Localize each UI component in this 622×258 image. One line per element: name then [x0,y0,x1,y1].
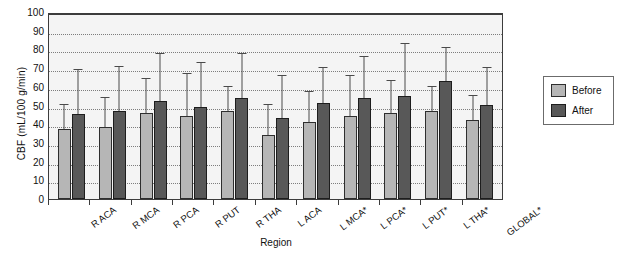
bar-rect [262,135,275,199]
bar-rect [480,105,493,199]
error-bar-line [241,54,242,98]
bar-before[interactable] [58,15,71,199]
bar-rect [466,120,479,199]
bar-rect [72,114,85,199]
error-bar-cap [74,69,83,70]
error-bar-cap [142,78,151,79]
y-axis-tick-label: 20 [18,158,44,168]
bar-after[interactable] [480,15,493,199]
error-bar-cap [237,53,246,54]
bar-after[interactable] [194,15,207,199]
error-bar-line [160,54,161,102]
bar-groups [49,15,502,199]
bar-after[interactable] [358,15,371,199]
bar-group [418,15,459,199]
bar-before[interactable] [99,15,112,199]
error-bar-line [472,96,473,120]
error-bar-cap [441,47,450,48]
error-bar-line [309,92,310,121]
error-bar-cap [427,86,436,87]
bar-before[interactable] [344,15,357,199]
bar-after[interactable] [317,15,330,199]
error-bar-line [268,105,269,134]
legend-label: Before [572,85,601,96]
bar-after[interactable] [276,15,289,199]
x-axis-title-text: Region [260,237,292,248]
legend-item[interactable]: Before [548,82,609,99]
x-axis-tick-labels: R ACAR MCAR PCAR PUTR THAL ACAL MCA*L PC… [48,200,503,240]
bar-rect [317,103,330,199]
y-axis-tick-label: 50 [18,102,44,112]
bar-before[interactable] [140,15,153,199]
bar-rect [113,111,126,199]
error-bar-line [486,68,487,105]
after-swatch [551,104,566,117]
plot-area [48,13,503,200]
bar-after[interactable] [72,15,85,199]
error-bar-line [364,57,365,97]
error-bar-cap [264,104,273,105]
x-axis-label-lput: L PUT* [420,204,451,231]
x-axis-label-raca: R ACA [88,204,117,230]
error-bar-cap [360,56,369,57]
bar-before[interactable] [303,15,316,199]
bar-after[interactable] [154,15,167,199]
bar-rect [180,116,193,199]
error-bar-cap [101,97,110,98]
error-bar-line [282,76,283,118]
error-bar-line [323,68,324,103]
bar-before[interactable] [221,15,234,199]
x-axis-label-global: GLOBAL* [505,204,545,238]
chart-legend: BeforeAfter [543,76,614,125]
y-axis-tick-label: 70 [18,64,44,74]
bar-after[interactable] [113,15,126,199]
error-bar-cap [386,80,395,81]
bar-rect [276,118,289,199]
error-bar-line [200,63,201,107]
bar-group [133,15,174,199]
x-axis-label-laca: L ACA [295,204,323,229]
y-axis-tick-label: 100 [18,8,44,18]
error-bar-line [350,76,351,116]
bar-after[interactable] [439,15,452,199]
error-bar-cap [196,62,205,63]
bar-after[interactable] [235,15,248,199]
error-bar-cap [60,104,69,105]
bar-after[interactable] [398,15,411,199]
bar-before[interactable] [180,15,193,199]
bar-group [337,15,378,199]
error-bar-line [105,98,106,127]
error-bar-line [227,87,228,111]
y-axis-tick-labels: 1009080706050403020100 [18,8,44,204]
error-bar-cap [115,66,124,67]
error-bar-line [78,70,79,114]
error-bar-cap [305,91,314,92]
bar-rect [398,96,411,199]
x-axis-label-rput: R PUT [213,204,242,230]
bar-rect [344,116,357,199]
error-bar-cap [156,53,165,54]
bar-rect [140,113,153,199]
error-bar-cap [182,73,191,74]
y-axis-tick-label: 40 [18,120,44,130]
bar-before[interactable] [466,15,479,199]
error-bar-line [64,105,65,129]
x-axis-label-ltha: L THA* [461,204,492,231]
error-bar-line [146,79,147,112]
error-bar-line [119,67,120,111]
error-bar-line [390,81,391,112]
bar-rect [439,81,452,199]
bar-rect [425,111,438,199]
bar-group [459,15,500,199]
y-axis-tick-label: 30 [18,139,44,149]
bar-before[interactable] [262,15,275,199]
y-axis-tick-label: 60 [18,83,44,93]
bar-before[interactable] [425,15,438,199]
legend-item[interactable]: After [548,102,609,119]
x-axis-label-rmca: R MCA [130,204,161,231]
bar-before[interactable] [384,15,397,199]
error-bar-cap [468,95,477,96]
x-axis-label-rpca: R PCA [171,204,201,230]
bar-rect [303,122,316,199]
x-axis-title: Region [0,237,622,248]
